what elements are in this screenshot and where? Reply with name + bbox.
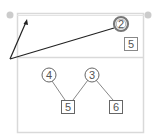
arrow-lines bbox=[10, 19, 114, 59]
edge-3-5 bbox=[73, 80, 88, 100]
outer-frame bbox=[18, 14, 144, 133]
tree-edges bbox=[52, 80, 113, 100]
node-circle-2[interactable]: 2 bbox=[114, 17, 128, 31]
node-circle-4[interactable]: 4 bbox=[42, 68, 56, 82]
edge-4-5 bbox=[52, 81, 65, 100]
node-label: 4 bbox=[46, 69, 52, 81]
node-label: 3 bbox=[89, 69, 95, 81]
node-label: 2 bbox=[118, 18, 124, 30]
edge-3-6 bbox=[96, 80, 113, 100]
node-label: 5 bbox=[65, 101, 71, 113]
node-square-5[interactable]: 5 bbox=[62, 101, 75, 114]
handle-left-icon[interactable] bbox=[7, 12, 14, 19]
arrowhead-icon bbox=[24, 19, 29, 25]
node-circle-3[interactable]: 3 bbox=[85, 68, 99, 82]
diagram-canvas: 2 5 4 3 5 6 bbox=[0, 0, 159, 140]
node-label: 6 bbox=[113, 101, 119, 113]
node-square-6[interactable]: 6 bbox=[110, 101, 123, 114]
arrow-to-node-2 bbox=[10, 28, 114, 59]
node-square-5-top[interactable]: 5 bbox=[125, 38, 138, 51]
handle-right-icon[interactable] bbox=[145, 12, 152, 19]
node-label: 5 bbox=[128, 38, 134, 50]
